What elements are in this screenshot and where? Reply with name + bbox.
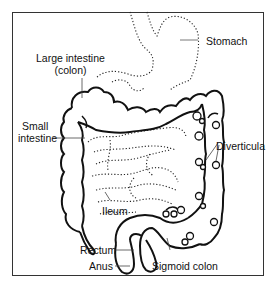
label-rectum: Rectum (80, 244, 116, 256)
diverticula (163, 112, 220, 245)
small-intestine-loops (88, 80, 186, 214)
label-ileum: Ileum (102, 205, 128, 217)
label-large-intestine-line1: Large intestine (36, 52, 105, 64)
stomach-outline (96, 12, 199, 90)
label-stomach: Stomach (206, 35, 247, 47)
leader-lines (53, 78, 219, 266)
label-sigmoid-colon: Sigmoid colon (152, 260, 218, 272)
label-small-intestine-line2: intestine (18, 132, 57, 144)
label-large-intestine-line2: (colon) (36, 64, 105, 76)
label-diverticula: Diverticula (216, 140, 265, 152)
label-small-intestine: Small intestine (18, 120, 57, 144)
label-large-intestine: Large intestine (colon) (36, 52, 105, 76)
label-anus: Anus (89, 260, 113, 272)
label-small-intestine-line1: Small (18, 120, 57, 132)
